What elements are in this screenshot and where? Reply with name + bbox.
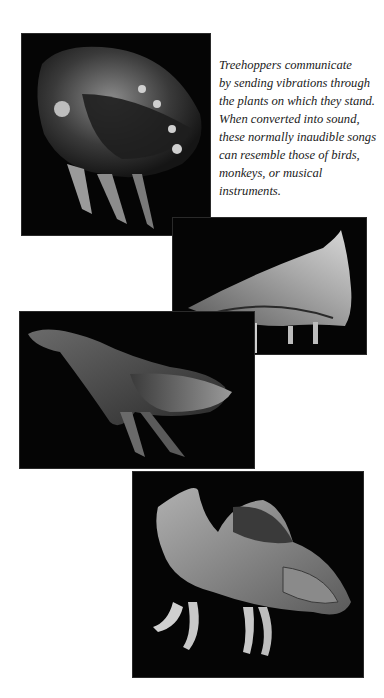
treehopper-image-3 [20,312,254,468]
caption-line: Treehoppers communicate [219,56,384,74]
caption-line: these normally inaudible songs [219,128,384,146]
treehopper-image-1 [22,34,210,235]
treehopper-image-4 [133,472,363,677]
caption-line: can resemble those of birds, [219,146,384,164]
caption-line: instruments. [219,182,384,200]
treehopper-photo-3 [20,312,254,468]
treehopper-photo-4 [133,472,363,677]
caption-line: by sending vibrations through [219,74,384,92]
caption-line: monkeys, or musical [219,164,384,182]
caption-line: the plants on which they stand. [219,92,384,110]
treehopper-photo-1 [22,34,210,235]
caption-line: When converted into sound, [219,110,384,128]
caption-text: Treehoppers communicate by sending vibra… [219,56,384,200]
